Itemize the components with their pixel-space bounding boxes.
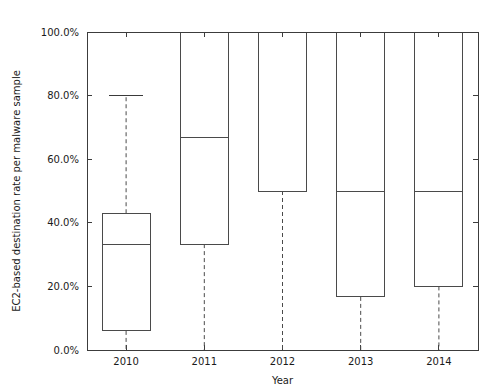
y-axis-title: EC2-based destination rate per malware s…	[11, 70, 22, 312]
y-tick-label: 40.0%	[47, 217, 79, 228]
x-tick-label: 2013	[348, 356, 373, 367]
y-tick-label: 80.0%	[47, 90, 79, 101]
x-tick-label: 2012	[270, 356, 295, 367]
box-body	[102, 213, 150, 331]
boxplot-box-2011	[180, 32, 228, 350]
x-tick-label: 2014	[426, 356, 451, 367]
x-tick-label: 2010	[113, 356, 138, 367]
y-tick-label: 100.0%	[41, 27, 79, 38]
x-tick-label: 2011	[192, 356, 217, 367]
chart-canvas: 0.0%20.0%40.0%60.0%80.0%100.0% 201020112…	[0, 0, 503, 390]
y-tick-label: 0.0%	[54, 345, 79, 356]
boxplot-box-2010	[102, 96, 150, 350]
boxplot-box-2013	[337, 32, 385, 350]
box-body	[337, 32, 385, 297]
boxplot-box-2014	[415, 32, 463, 350]
boxplot-series	[102, 32, 463, 350]
box-body	[415, 32, 463, 286]
boxplot-figure: 0.0%20.0%40.0%60.0%80.0%100.0% 201020112…	[0, 0, 503, 390]
x-axis-title: Year	[271, 375, 294, 386]
y-tick-label: 60.0%	[47, 154, 79, 165]
y-tick-label: 20.0%	[47, 281, 79, 292]
boxplot-box-2012	[259, 32, 307, 350]
box-body	[259, 32, 307, 191]
